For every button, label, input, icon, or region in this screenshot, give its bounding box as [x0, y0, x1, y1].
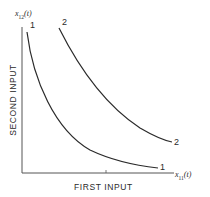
- y-axis-title: SECOND INPUT: [9, 64, 18, 135]
- isoquant-curve-2: [59, 28, 172, 142]
- curve-2-end-label: 2: [174, 138, 179, 147]
- x-axis-title: FIRST INPUT: [74, 183, 133, 192]
- curve-1-start-label: 1: [30, 21, 35, 30]
- x-axis-variable: x11(t): [175, 171, 191, 181]
- y-axis-variable: x12(t): [15, 10, 32, 20]
- curve-1-end-label: 1: [160, 163, 165, 172]
- curve-2-start-label: 2: [62, 18, 67, 27]
- isoquant-diagram: SECOND INPUT FIRST INPUT x12(t) x11(t) 1…: [0, 0, 210, 197]
- isoquant-curve-1: [27, 32, 158, 168]
